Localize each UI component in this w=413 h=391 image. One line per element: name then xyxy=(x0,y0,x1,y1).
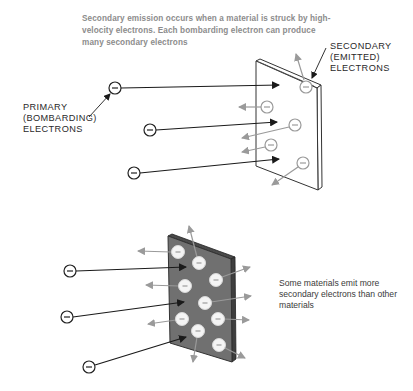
primary-label-pointer xyxy=(89,94,110,117)
secondary-emission-diagram xyxy=(0,0,413,391)
primary-electrons-bottom xyxy=(61,265,186,373)
secondary-label-pointer xyxy=(312,48,326,78)
primary-electrons-top xyxy=(109,82,279,179)
